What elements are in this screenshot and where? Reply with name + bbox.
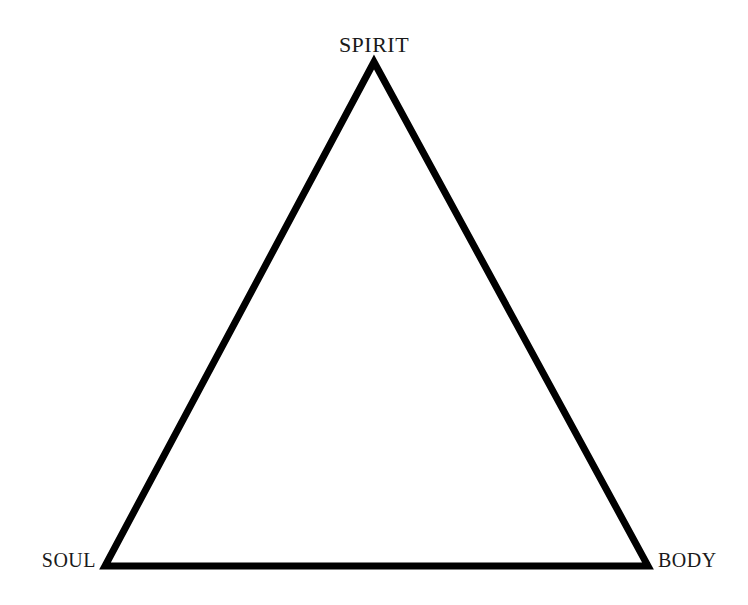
vertex-label-spirit: SPIRIT: [339, 34, 409, 56]
triangle-shape: [0, 0, 748, 605]
vertex-label-body: BODY: [658, 550, 717, 570]
triangle-outline: [105, 62, 648, 566]
vertex-label-soul: SOUL: [42, 550, 96, 570]
triangle-diagram: SPIRIT SOUL BODY: [0, 0, 748, 605]
